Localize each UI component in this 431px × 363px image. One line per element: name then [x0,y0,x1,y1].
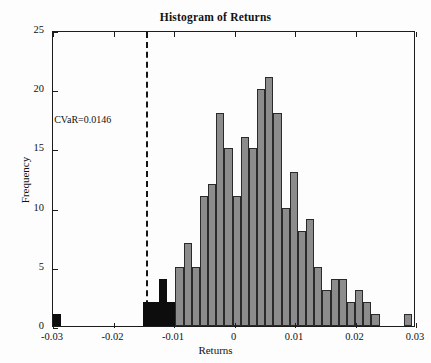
histogram-bar [143,302,151,326]
histogram-bar [53,314,61,326]
x-tick-mark [235,323,236,328]
histogram-bar [233,196,241,326]
histogram-bar [192,267,200,326]
histogram-bar [167,302,175,326]
histogram-bar [184,243,192,326]
y-axis-label: Frequency [19,157,31,203]
histogram-bar [347,302,355,326]
x-axis-label: Returns [0,344,431,356]
cvar-threshold-line [146,32,148,326]
histogram-bar [339,279,347,326]
x-tick-mark-top [114,32,115,37]
x-tick-mark-top [53,32,54,37]
x-tick-label: 0.02 [333,331,377,342]
x-tick-mark [356,323,357,328]
y-tick-label: 0 [20,320,44,331]
histogram-bar [249,148,257,326]
x-tick-label: 0.01 [272,331,316,342]
chart-title: Histogram of Returns [0,11,431,23]
y-tick-mark [53,91,58,92]
x-tick-label: -0.01 [151,331,195,342]
y-tick-label: 20 [20,83,44,94]
y-tick-mark [53,150,58,151]
histogram-bar [200,196,208,326]
histogram-bars [53,32,414,326]
y-tick-label: 15 [20,142,44,153]
y-tick-label: 25 [20,24,44,35]
histogram-bar [371,314,379,326]
x-tick-mark-top [235,32,236,37]
histogram-bar [314,267,322,326]
histogram-bar [290,172,298,326]
x-tick-label: 0.03 [393,331,431,342]
histogram-bar [257,89,265,326]
y-tick-label: 5 [20,261,44,272]
histogram-bar [322,290,330,326]
histogram-bar [273,113,281,326]
y-tick-mark [53,328,58,329]
histogram-bar [241,137,249,326]
histogram-bar [282,208,290,326]
histogram-bar [175,267,183,326]
x-tick-label: -0.03 [30,331,74,342]
x-tick-label: -0.02 [91,331,135,342]
histogram-bar [216,113,224,326]
histogram-bar [331,279,339,326]
x-tick-mark [114,323,115,328]
histogram-bar [265,77,273,326]
plot-area: CVaR=0.0146 [52,31,415,327]
cvar-annotation-label: CVaR=0.0146 [54,114,111,125]
histogram-bar [306,219,314,326]
figure-canvas: Histogram of Returns Frequency Returns 0… [0,0,431,363]
y-tick-label: 10 [20,202,44,213]
x-tick-mark-top [295,32,296,37]
histogram-bar [159,279,167,326]
x-tick-label: 0 [212,331,256,342]
x-tick-mark [295,323,296,328]
histogram-bar [208,184,216,326]
histogram-bar [363,302,371,326]
x-tick-mark-top [416,32,417,37]
histogram-bar [355,290,363,326]
x-tick-mark [416,323,417,328]
histogram-bar [404,314,412,326]
histogram-bar [298,231,306,326]
y-tick-mark [53,210,58,211]
x-tick-mark-top [356,32,357,37]
y-tick-mark [53,269,58,270]
histogram-bar [224,148,232,326]
histogram-bar [151,302,159,326]
x-tick-mark-top [174,32,175,37]
